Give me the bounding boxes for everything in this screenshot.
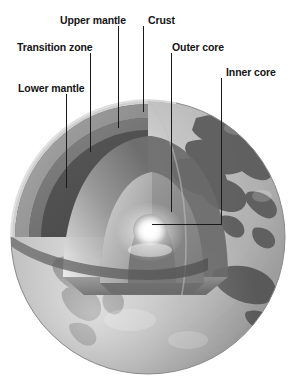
label-inner-core: Inner core (226, 66, 276, 78)
label-crust: Crust (148, 14, 175, 26)
earth-cutaway-figure (0, 0, 297, 379)
label-outer-core: Outer core (172, 41, 224, 53)
outer-core-base-step (100, 283, 204, 294)
label-transition-zone: Transition zone (17, 41, 93, 53)
label-upper-mantle: Upper mantle (60, 14, 126, 26)
inner-core-floor-glow (128, 243, 172, 257)
layer-inner-core (133, 214, 167, 246)
label-lower-mantle: Lower mantle (18, 82, 84, 94)
